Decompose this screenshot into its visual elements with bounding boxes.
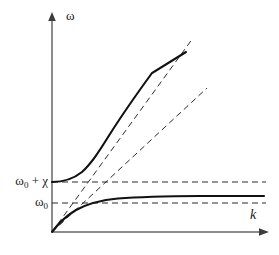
x-axis-arrowhead	[259, 228, 269, 236]
tick-omega-symbol: ω	[15, 173, 24, 188]
tick-label-omega0-plus-chi: ω0 + χ	[0, 173, 48, 190]
y-axis-label: ω	[66, 8, 75, 24]
tick-label-omega0: ω0	[0, 194, 48, 211]
dispersion-figure: ω k ω0 + χ ω0	[0, 0, 279, 255]
dispersion-plot-svg	[0, 0, 279, 255]
tick-omega-symbol-lower: ω	[35, 194, 44, 209]
tick-omega-subscript-lower: 0	[44, 201, 49, 211]
curve-upper-branch	[52, 52, 186, 182]
curve-lower-branch	[52, 196, 264, 232]
tick-omega-tail: + χ	[28, 173, 48, 188]
x-axis-label: k	[250, 207, 256, 223]
y-axis-arrowhead	[48, 12, 56, 21]
